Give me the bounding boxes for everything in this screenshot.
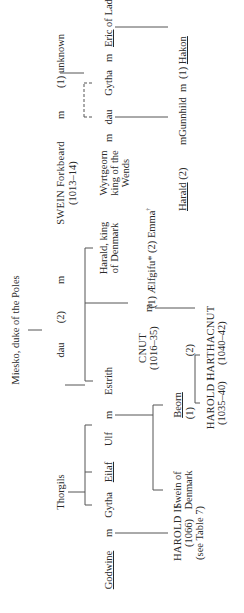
person-harald-king-line2: of Denmark [109,223,120,273]
hakon-marriage-num: (1) [177,64,188,79]
person-harold-i: HAROLD I [205,377,216,429]
marriage-m: m [55,276,66,284]
person-gunnhild: Gunnhild [177,97,188,137]
person-godwine: Godwine [103,551,114,590]
eric-rest: of Lade [103,0,114,30]
person-dau: dau [103,109,114,124]
marriage-m: m [177,137,188,145]
hakon-line: (1) Hakon [177,36,188,79]
person-swein-of-denmark-line2: Denmark [183,470,194,509]
marriage-m: m [55,111,66,119]
cnut-dates: (1016–35) [148,326,159,370]
person-dau-miesko: dau [55,342,66,357]
marriage-m: m [177,84,188,92]
cnut-wives-text: (1) Ælfgifu* (2) Emma [146,211,157,309]
person-beorn: Beorn [172,392,183,418]
harold-ii-note: (see Table 7) [194,506,205,560]
person-swein-forkbeard: SWEIN Forkbeard [55,141,66,225]
harald-marriage-line: Harald (2) [177,168,188,211]
person-ulf: Ulf [103,432,114,446]
harold-i-number: (1) [184,407,195,419]
harold-i-dates: (1035–40) [216,381,227,425]
harald-marriage-num: (2) [177,168,188,183]
person-harald-king: Harald, king [98,222,109,275]
person-eric-of-lade: Eric of Lade [103,0,114,47]
person-gytha-2: Gytha [103,70,114,96]
person-wyrtgeorn-line3: Wends [120,159,131,187]
person-wyrtgeorn-line2: king of the [109,150,120,196]
person-wyrtgeorn: Wyrtgeorn [98,151,109,196]
person-harold-ii: HAROLD II [172,505,183,561]
person-harald: Harald [177,182,188,211]
person-hakon: Hakon [177,36,188,64]
person-cnut: CNUT [137,333,148,363]
person-harthacnut: HARTHACNUT [205,306,216,381]
person-miesko: Miesko, duke of the Poles [10,275,21,384]
emma-footnote: † [145,208,151,211]
person-unknown: (1) unknown [55,34,66,88]
person-gytha: Gytha [103,492,114,518]
marriage-m: m [103,134,114,142]
person-swein-of-denmark: Swein of [172,471,183,509]
genealogy-diagram: Miesko, duke of the Poles dau (2) m SWEI… [0,0,244,613]
eric-name: Eric [103,30,114,48]
swein-dates: (1013–14) [67,161,78,205]
marriage-m: m [103,529,114,537]
person-estrith: Estrith [103,367,114,395]
harthacnut-dates: (1040–42) [216,321,227,365]
marriage-m: m [103,54,114,62]
harthacnut-number: (2) [184,344,195,356]
person-eilaf: Eilaf [103,462,114,482]
marriage-number: (2) [55,311,66,323]
cnut-wives: (1) Ælfgifu* (2) Emma† [143,208,157,309]
marriage-m: m [103,411,114,419]
person-thorgils: Thorgils [55,474,66,509]
harold-ii-dates: (1066) [183,519,194,547]
